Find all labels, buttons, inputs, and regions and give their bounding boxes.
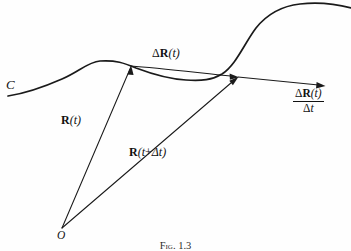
diagram-canvas [0,0,351,251]
curve-label-c: C [6,78,15,91]
label-rt-paren-close: ) [77,113,81,127]
label-rtdt-plus: + [145,145,152,159]
label-position-vector-r-of-t-plus-delta-t: R(t+Δt) [129,146,166,158]
label-rtdt-paren-close: ) [162,145,166,159]
label-difference-quotient: ΔR(t) Δt [293,88,324,114]
denominator-argument: t [310,102,313,114]
vector-position-diagram: C O R(t) R(t+Δt) ΔR(t) ΔR(t) Δt Fig. 1.3 [0,0,351,251]
label-rt-vector: R [61,113,70,127]
vector-r-of-t [62,69,130,228]
label-position-vector-r-of-t: R(t) [61,114,81,126]
figure-caption: Fig. 1.3 [0,241,351,251]
numerator-vector: R [302,87,310,99]
numerator-paren-close: ) [318,87,322,99]
label-deltar-delta: Δ [152,46,160,60]
label-deltar-paren-close: ) [176,46,180,60]
label-displacement-delta-r: ΔR(t) [152,47,180,59]
origin-label-o: O [57,230,65,242]
difference-quotient-numerator: ΔR(t) [293,88,324,102]
tangent-ray-difference-quotient [238,77,321,85]
label-rtdt-delta-t: Δt [152,145,162,159]
difference-quotient-denominator: Δt [293,102,324,115]
label-rtdt-vector: R [129,145,138,159]
